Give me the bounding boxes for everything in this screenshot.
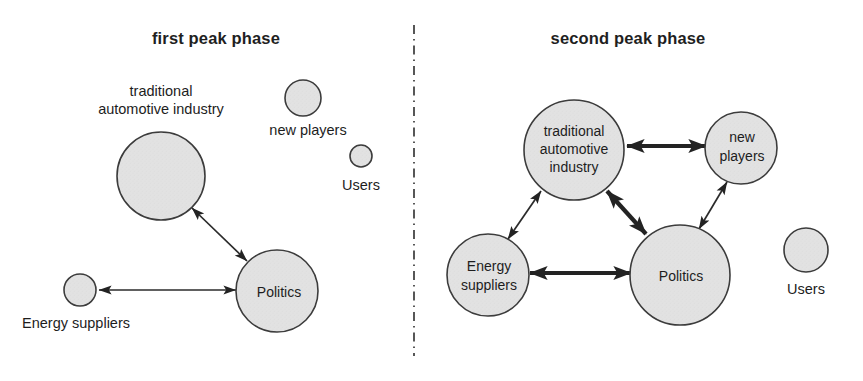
node-label-users: Users <box>787 281 825 297</box>
edge-new-players-politics <box>699 182 727 229</box>
panel-first-peak-phase: first peak phase traditional automotive … <box>22 29 380 332</box>
edge-traditional-automotive-industry-energy-suppliers <box>508 191 541 239</box>
node-label-politics: Politics <box>659 268 703 284</box>
edge-politics-traditional-automotive-industry <box>192 208 247 261</box>
edge-group-first <box>99 208 247 290</box>
node-label-users: Users <box>342 177 380 193</box>
edge-traditional-automotive-industry-politics <box>607 191 646 234</box>
node-users-first[interactable]: Users <box>342 145 380 193</box>
panel-title-first: first peak phase <box>152 29 280 47</box>
bubble-grain <box>286 81 320 115</box>
diagram-figure: first peak phase traditional automotive … <box>0 0 863 381</box>
node-label-energy-suppliers-line2: suppliers <box>461 277 517 293</box>
bubble-grain <box>785 229 827 271</box>
node-label-energy-suppliers: Energy suppliers <box>22 315 130 331</box>
node-label-traditional-line2: automotive <box>540 141 609 157</box>
diagram-canvas: first peak phase traditional automotive … <box>0 0 863 381</box>
node-label-traditional-line3: industry <box>549 159 598 175</box>
panel-title-second: second peak phase <box>551 29 706 47</box>
node-new-players-second[interactable]: new players <box>705 112 777 184</box>
node-politics-second[interactable]: Politics <box>630 225 730 325</box>
node-label-new-players-line1: new <box>729 129 756 145</box>
node-label-new-players-line2: players <box>719 148 764 164</box>
panel-second-peak-phase: second peak phase traditional automotive… <box>447 29 828 325</box>
node-new-players-first[interactable]: new players <box>269 80 346 138</box>
node-energy-suppliers-second[interactable]: Energy suppliers <box>447 234 529 316</box>
node-label-politics: Politics <box>257 284 301 300</box>
node-label-traditional-line1: traditional <box>130 83 193 99</box>
node-traditional-automotive-industry-second[interactable]: traditional automotive industry <box>524 100 624 200</box>
node-label-traditional-line2: automotive industry <box>98 101 224 117</box>
node-label-traditional-line1: traditional <box>544 123 605 139</box>
bubble-grain <box>65 275 95 305</box>
bubble-grain <box>448 235 528 315</box>
node-label-new-players: new players <box>269 122 346 138</box>
node-traditional-automotive-industry-first[interactable]: traditional automotive industry <box>98 83 224 220</box>
node-label-energy-suppliers-line1: Energy <box>467 258 511 274</box>
node-energy-suppliers-first[interactable]: Energy suppliers <box>22 274 130 331</box>
bubble-grain <box>118 133 204 219</box>
node-politics-first[interactable]: Politics <box>236 250 318 332</box>
node-users-second[interactable]: Users <box>784 228 828 297</box>
bubble-grain <box>351 146 371 166</box>
